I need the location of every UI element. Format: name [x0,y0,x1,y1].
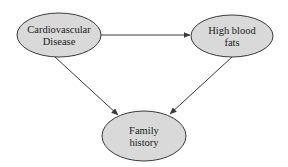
diagram-svg: Cardiovascular Disease High blood fats F… [0,0,288,167]
node-label-line1: Cardiovascular [27,24,91,35]
edge-cardiovascular-to-family-history [55,57,118,115]
node-cardiovascular-disease: Cardiovascular Disease [17,13,101,57]
node-high-blood-fats: High blood fats [191,15,273,57]
edge-high-blood-fats-to-family-history [170,57,232,114]
node-label-line1: High blood [208,25,256,36]
node-label-line1: Family [129,125,160,136]
node-family-history: Family history [102,111,186,161]
node-label-line2: fats [224,37,239,48]
node-label-line2: history [129,137,159,148]
node-ellipse [191,15,273,57]
node-ellipse [17,13,101,57]
node-label-line2: Disease [43,36,76,47]
diagram-canvas: Cardiovascular Disease High blood fats F… [0,0,288,167]
node-ellipse [102,111,186,161]
